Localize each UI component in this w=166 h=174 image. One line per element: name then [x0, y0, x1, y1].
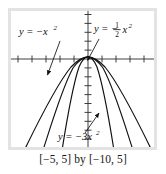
viewing-window-caption: [−5, 5] by [−10, 5] [0, 153, 166, 165]
label-negative-x-squared-exponent: 2 [54, 24, 58, 32]
label-half-x-squared-variable: x [122, 24, 128, 35]
label-negative-x-squared-text: y = −x [18, 26, 48, 37]
label-half-x-squared-exponent: 2 [129, 22, 133, 30]
label-negative-3x-squared-text: y = −3x [57, 131, 92, 142]
leader-line-negative-x-squared [48, 41, 61, 75]
plot-canvas: y = −x 2 y = − 1 2 x 2 y = −3x 2 [11, 11, 154, 147]
plot-frame: y = −x 2 y = − 1 2 x 2 y = −3x 2 [8, 8, 157, 150]
label-negative-3x-squared-exponent: 2 [96, 129, 100, 137]
label-negative-x-squared: y = −x 2 [18, 24, 58, 37]
label-half-x-squared-denominator: 2 [115, 30, 119, 39]
label-half-x-squared: y = − 1 2 x 2 [93, 21, 133, 39]
parabola-figure: y = −x 2 y = − 1 2 x 2 y = −3x 2 [−5, 5]… [0, 0, 166, 174]
label-negative-3x-squared: y = −3x 2 [57, 129, 100, 142]
